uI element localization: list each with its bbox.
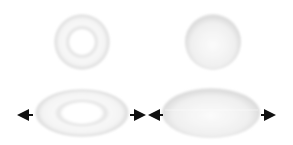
diagram-canvas <box>0 0 293 145</box>
sphere-stretched-body <box>162 88 260 138</box>
torus-stretched-body <box>35 89 129 137</box>
torus-rest <box>54 14 110 70</box>
torus-stretched <box>35 89 129 137</box>
sphere-rest-body <box>185 14 241 70</box>
sphere-stretched <box>162 88 260 138</box>
torus-rest-body <box>54 14 110 70</box>
sphere-rest <box>185 14 241 70</box>
